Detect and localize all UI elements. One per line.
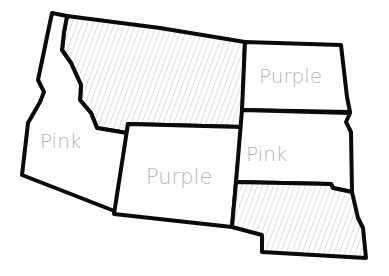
label-north-dakota: Purple xyxy=(259,64,322,88)
region-nebraska[interactable] xyxy=(232,182,366,258)
label-wyoming: Purple xyxy=(146,165,212,189)
label-idaho: Pink xyxy=(40,129,81,153)
label-south-dakota: Pink xyxy=(246,142,287,166)
state-map: Pink Purple Purple Pink xyxy=(0,0,389,276)
